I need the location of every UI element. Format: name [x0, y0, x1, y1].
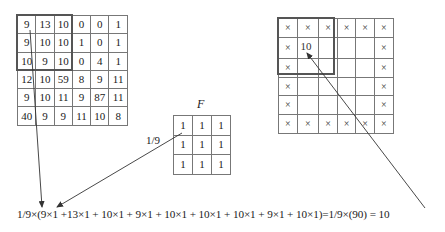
grid-cell: 10: [54, 52, 72, 70]
grid-cell: 9: [36, 107, 54, 125]
grid-cell: ×: [279, 59, 298, 78]
grid-cell: 0: [91, 16, 109, 34]
grid-cell: 0: [72, 16, 90, 34]
grid-cell: 0: [91, 34, 109, 52]
kernel-cell: 1: [193, 135, 212, 155]
grid-cell: ×: [374, 37, 393, 59]
grid-cell: ×: [356, 114, 375, 133]
grid-cell: [337, 59, 356, 78]
grid-cell: ×: [374, 19, 393, 38]
grid-cell: ×: [297, 19, 319, 38]
grid-cell: 10: [36, 34, 54, 52]
grid-cell: [319, 37, 338, 59]
grid-row: 10 9 10 0 4 1: [18, 52, 128, 70]
grid-cell: 9: [18, 16, 36, 34]
kernel-cell: 1: [174, 116, 193, 136]
grid-row: 1 1 1: [174, 135, 231, 155]
grid-cell: [319, 77, 338, 96]
output-image-grid: × × × × × × × 10 × × × ×: [278, 18, 394, 134]
grid-row: 1 1 1: [174, 116, 231, 136]
kernel-cell: 1: [212, 155, 231, 175]
grid-cell: ×: [279, 19, 298, 38]
input-image-grid: 9 13 10 0 0 1 9 10 10 1 0 1 10 9 10 0 4 …: [17, 15, 128, 126]
grid-cell: [319, 96, 338, 115]
grid-cell: 12: [18, 70, 36, 88]
grid-cell: ×: [279, 114, 298, 133]
grid-row: 9 13 10 0 0 1: [18, 16, 128, 34]
grid-row: × 10 ×: [279, 37, 394, 59]
grid-cell: ×: [374, 96, 393, 115]
result-cell: 10: [297, 37, 319, 59]
grid-cell: ×: [374, 77, 393, 96]
convolution-equation: 1/9×(9×1 +13×1 + 10×1 + 9×1 + 10×1 + 10×…: [17, 208, 390, 220]
grid-cell: ×: [374, 114, 393, 133]
grid-row: 9 10 11 9 87 11: [18, 89, 128, 107]
grid-cell: 10: [91, 107, 109, 125]
grid-cell: ×: [356, 19, 375, 38]
grid-cell: [356, 59, 375, 78]
grid-cell: [356, 96, 375, 115]
grid-cell: [356, 37, 375, 59]
grid-cell: 11: [109, 89, 127, 107]
grid-row: 9 10 10 1 0 1: [18, 34, 128, 52]
grid-cell: 10: [54, 16, 72, 34]
grid-cell: 11: [109, 70, 127, 88]
grid-cell: ×: [319, 19, 338, 38]
grid-row: × ×: [279, 59, 394, 78]
grid-row: × × × × × ×: [279, 19, 394, 38]
grid-cell: [337, 37, 356, 59]
grid-cell: [337, 96, 356, 115]
grid-row: 12 10 59 8 9 11: [18, 70, 128, 88]
grid-cell: 10: [36, 89, 54, 107]
grid-cell: [297, 59, 319, 78]
grid-cell: 11: [72, 107, 90, 125]
grid-cell: 9: [54, 107, 72, 125]
grid-row: 40 9 9 11 10 8: [18, 107, 128, 125]
grid-cell: ×: [279, 96, 298, 115]
grid-cell: 9: [18, 89, 36, 107]
grid-cell: ×: [337, 114, 356, 133]
grid-cell: 10: [54, 34, 72, 52]
grid-cell: 9: [91, 70, 109, 88]
grid-cell: ×: [297, 114, 319, 133]
grid-cell: ×: [279, 37, 298, 59]
kernel-cell: 1: [193, 155, 212, 175]
grid-cell: [297, 77, 319, 96]
grid-cell: 1: [72, 34, 90, 52]
grid-cell: [297, 96, 319, 115]
kernel-cell: 1: [174, 155, 193, 175]
filter-label: F: [197, 97, 204, 112]
grid-cell: 9: [36, 52, 54, 70]
grid-cell: 10: [18, 52, 36, 70]
grid-cell: 40: [18, 107, 36, 125]
grid-cell: 11: [54, 89, 72, 107]
grid-row: 1 1 1: [174, 155, 231, 175]
grid-cell: 8: [109, 107, 127, 125]
grid-cell: [356, 77, 375, 96]
grid-cell: 13: [36, 16, 54, 34]
grid-row: × ×: [279, 77, 394, 96]
grid-cell: 0: [72, 52, 90, 70]
grid-cell: [319, 59, 338, 78]
grid-cell: 9: [72, 89, 90, 107]
grid-cell: 87: [91, 89, 109, 107]
grid-cell: 1: [109, 16, 127, 34]
grid-row: × ×: [279, 96, 394, 115]
grid-cell: 10: [36, 70, 54, 88]
filter-scale-label: 1/9: [146, 134, 160, 146]
grid-cell: 1: [109, 34, 127, 52]
grid-cell: 9: [18, 34, 36, 52]
arrow-from-filter: [57, 133, 182, 207]
filter-kernel-grid: 1 1 1 1 1 1 1 1 1: [173, 115, 231, 175]
grid-cell: 8: [72, 70, 90, 88]
grid-cell: ×: [337, 19, 356, 38]
grid-cell: 4: [91, 52, 109, 70]
kernel-cell: 1: [174, 135, 193, 155]
grid-cell: ×: [319, 114, 338, 133]
grid-cell: [337, 77, 356, 96]
grid-cell: ×: [374, 59, 393, 78]
grid-cell: ×: [279, 77, 298, 96]
grid-cell: 1: [109, 52, 127, 70]
kernel-cell: 1: [212, 116, 231, 136]
grid-cell: 59: [54, 70, 72, 88]
